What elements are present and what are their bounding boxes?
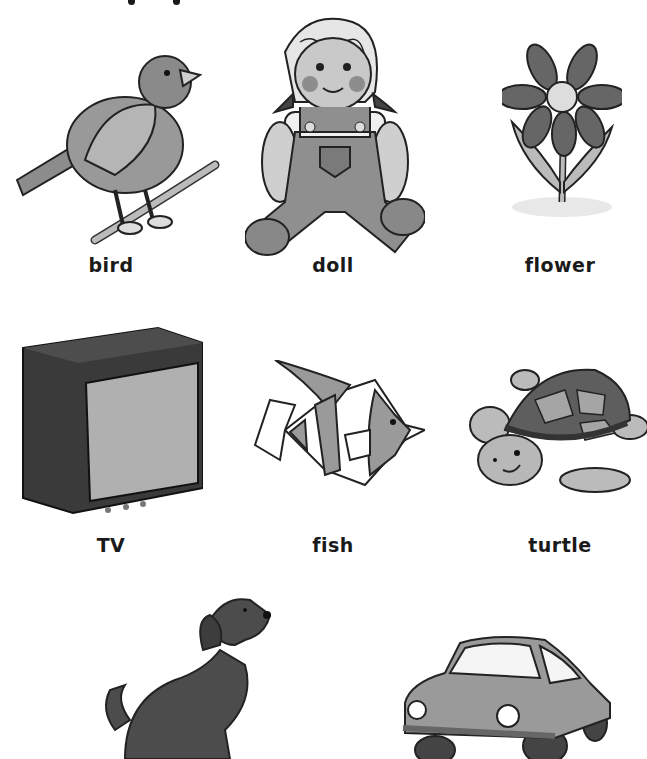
turtle-icon [465, 365, 647, 500]
bird-picture [5, 50, 220, 245]
bird-icon [5, 50, 220, 245]
label-fish: fish [253, 534, 413, 556]
heading-fragment [173, 0, 180, 5]
label-bird: bird [31, 254, 191, 276]
car-icon [395, 628, 615, 759]
doll-picture [245, 12, 425, 260]
doll-icon [245, 12, 425, 260]
flower-icon [502, 42, 622, 222]
tv-icon [18, 323, 203, 518]
fish-icon [245, 360, 425, 500]
heading-fragment [128, 0, 135, 5]
label-flower: flower [480, 254, 640, 276]
flower-picture [502, 42, 622, 222]
label-tv: TV [31, 534, 191, 556]
label-doll: doll [253, 254, 413, 276]
turtle-picture [465, 365, 647, 500]
label-turtle: turtle [480, 534, 640, 556]
fish-picture [245, 360, 425, 500]
tv-picture [18, 323, 203, 518]
car-picture [395, 628, 615, 759]
dog-picture [95, 590, 275, 759]
dog-icon [95, 590, 275, 759]
